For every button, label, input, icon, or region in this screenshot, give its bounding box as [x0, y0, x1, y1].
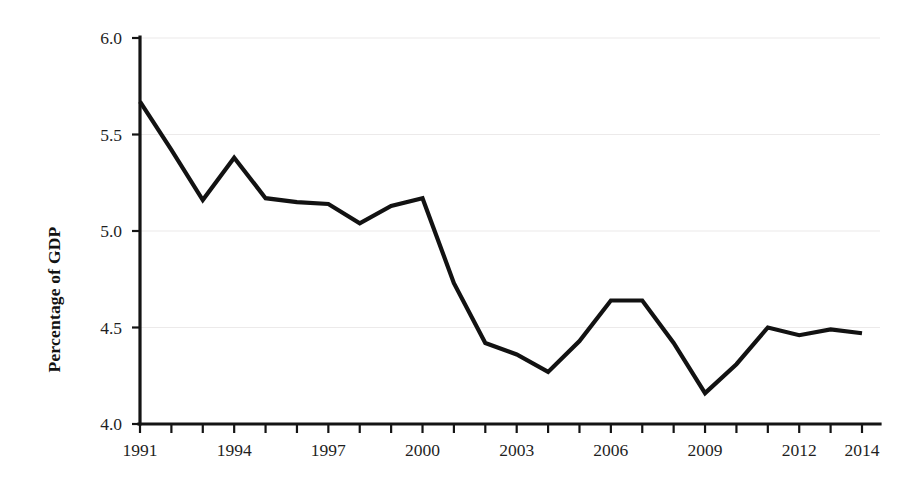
x-tick-label: 2003 — [499, 440, 534, 461]
data-series-line — [140, 102, 862, 393]
x-tick-label: 1997 — [311, 440, 346, 461]
x-tick-label: 2009 — [688, 440, 723, 461]
y-tick-label: 4.0 — [60, 414, 122, 435]
y-tick-label: 5.0 — [60, 221, 122, 242]
gridlines — [140, 38, 880, 424]
y-tick-label: 4.5 — [60, 317, 122, 338]
line-chart-figure: Percentage of GDP 6.05.55.04.54.0 199119… — [0, 0, 917, 487]
x-tick-label: 2014 — [845, 440, 880, 461]
plot-canvas — [0, 0, 917, 487]
axis-ticks — [132, 38, 862, 433]
x-tick-label: 2012 — [782, 440, 817, 461]
y-tick-label: 5.5 — [60, 124, 122, 145]
x-tick-label: 1991 — [123, 440, 158, 461]
x-tick-label: 2000 — [405, 440, 440, 461]
x-tick-label: 2006 — [593, 440, 628, 461]
x-tick-label: 1994 — [217, 440, 252, 461]
y-tick-label: 6.0 — [60, 28, 122, 49]
